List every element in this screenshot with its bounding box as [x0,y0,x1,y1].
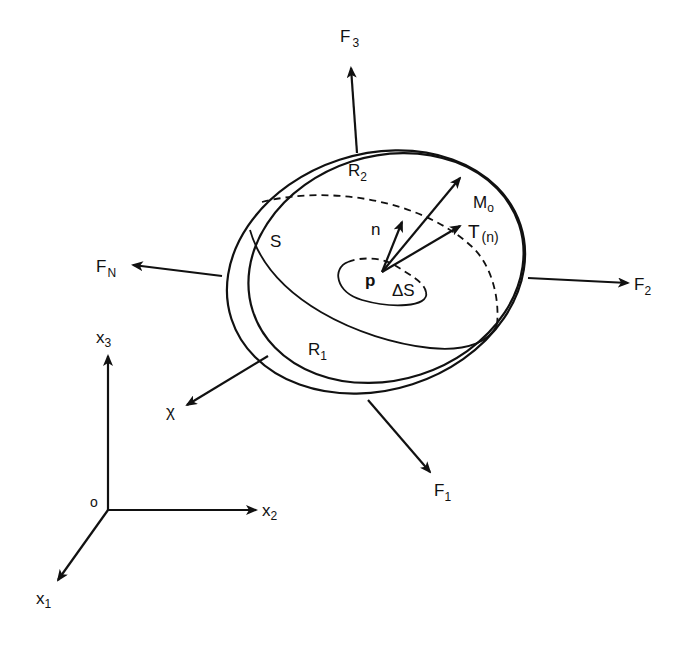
point-vectors [382,178,460,272]
coordinate-axes [58,356,256,580]
axis-x1 [58,510,108,580]
label-moment: Mo [473,193,494,215]
label-x3: x3 [96,328,112,350]
label-fn: FN [96,257,116,280]
label-x1: x1 [36,589,52,611]
label-surface-s: S [270,232,281,251]
body-outline [195,113,557,431]
label-r1: R1 [308,340,327,363]
normal-vector [382,222,402,272]
label-r2: R2 [348,161,367,184]
external-forces [133,68,628,472]
force-fn-arrow [133,265,222,276]
label-point-p: p [365,271,375,290]
force-f2-arrow [528,278,628,283]
body-force-arrow [187,356,268,405]
label-f3: F3 [340,27,359,50]
label-body-force-chi: χ [166,402,175,421]
label-x2: x2 [262,501,278,523]
free-body-diagram: R2 R1 S p ΔS n T(n) Mo χ F3 FN F2 F1 x3 … [0,0,685,647]
force-f1-arrow [368,400,430,472]
label-f2: F2 [634,275,651,298]
moment-vector [382,178,460,272]
force-f3-arrow [351,68,357,153]
label-f1: F1 [434,481,451,504]
label-origin: o [90,494,98,510]
label-traction: T(n) [468,221,499,245]
label-delta-s: ΔS [392,281,415,300]
labels: R2 R1 S p ΔS n T(n) Mo χ F3 FN F2 F1 x3 … [36,27,651,611]
label-normal-n: n [371,220,380,239]
traction-vector [382,226,460,272]
